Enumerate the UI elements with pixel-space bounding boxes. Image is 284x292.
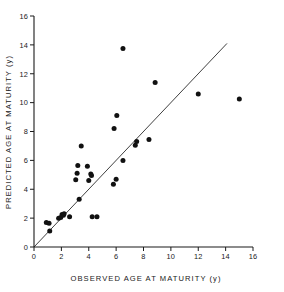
y-tick-label: 8	[24, 127, 28, 136]
y-tick-label: 4	[24, 185, 28, 194]
x-tick-label: 2	[59, 252, 63, 261]
data-point	[75, 171, 80, 176]
data-point	[112, 126, 117, 131]
x-tick-label: 4	[87, 252, 91, 261]
data-point	[85, 164, 90, 169]
data-point	[47, 221, 52, 226]
y-tick-label: 14	[19, 41, 28, 50]
data-point	[114, 113, 119, 118]
data-point	[90, 214, 95, 219]
data-point	[153, 80, 158, 85]
y-tick-label: 12	[19, 70, 28, 79]
data-point	[75, 163, 80, 168]
x-tick-label: 8	[141, 252, 145, 261]
x-axis-ticks: 0246810121416	[32, 247, 257, 261]
data-point	[86, 178, 91, 183]
data-point	[67, 214, 72, 219]
data-point	[47, 229, 52, 234]
data-point	[62, 211, 67, 216]
data-point	[196, 91, 201, 96]
x-tick-label: 10	[167, 252, 176, 261]
data-point	[120, 158, 125, 163]
y-tick-label: 10	[19, 98, 28, 107]
y-tick-label: 6	[24, 156, 28, 165]
x-tick-label: 16	[249, 252, 258, 261]
y-tick-label: 16	[19, 12, 28, 21]
x-tick-label: 6	[114, 252, 118, 261]
data-point	[79, 143, 84, 148]
data-point	[237, 97, 242, 102]
data-point	[120, 46, 125, 51]
data-point	[89, 173, 94, 178]
data-point	[73, 177, 78, 182]
data-point	[94, 214, 99, 219]
x-tick-label: 12	[194, 252, 203, 261]
plot-canvas: 0246810121416 0246810121416 OBSERVED AGE…	[0, 0, 284, 292]
x-axis-title: OBSERVED AGE AT MATURITY (y)	[70, 274, 221, 283]
data-point	[111, 182, 116, 187]
y-tick-label: 2	[24, 214, 28, 223]
data-point	[134, 139, 139, 144]
y-axis-ticks: 0246810121416	[19, 12, 34, 252]
x-tick-label: 0	[32, 252, 36, 261]
data-point	[77, 197, 82, 202]
y-axis-title: PREDICTED AGE AT MATURITY (y)	[4, 55, 13, 209]
y-tick-label: 0	[24, 243, 28, 252]
scatter-plot-figure: 0246810121416 0246810121416 OBSERVED AGE…	[0, 0, 284, 292]
x-tick-label: 14	[221, 252, 230, 261]
data-point	[114, 177, 119, 182]
data-point	[146, 137, 151, 142]
